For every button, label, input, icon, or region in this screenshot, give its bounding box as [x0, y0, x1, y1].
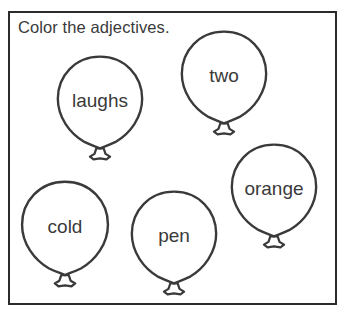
balloon-laughs[interactable]: laughs: [54, 53, 146, 163]
balloon-outline-icon: [18, 178, 112, 290]
balloon-pen[interactable]: pen: [128, 188, 220, 298]
balloon-outline-icon: [228, 141, 320, 251]
instruction-text: Color the adjectives.: [18, 17, 170, 37]
balloon-outline-icon: [178, 28, 270, 138]
balloon-outline-icon: [54, 53, 146, 163]
balloon-outline-icon: [128, 188, 220, 298]
balloon-orange[interactable]: orange: [228, 141, 320, 251]
worksheet-page: Color the adjectives. laughstwoorangecol…: [0, 0, 346, 320]
balloon-two[interactable]: two: [178, 28, 270, 138]
balloon-cold[interactable]: cold: [18, 178, 112, 290]
